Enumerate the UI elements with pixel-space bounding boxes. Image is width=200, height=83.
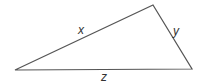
triangle-diagram: x y z bbox=[0, 0, 200, 83]
side-label-x: x bbox=[77, 23, 85, 37]
triangle-shape bbox=[15, 5, 192, 70]
side-label-y: y bbox=[172, 24, 180, 38]
side-label-z: z bbox=[100, 70, 107, 83]
